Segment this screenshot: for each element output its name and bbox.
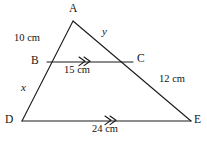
vertex-label-E: E [194, 114, 201, 126]
label-de-length: 24 cm [92, 124, 118, 135]
label-ce-length: 12 cm [159, 74, 185, 85]
label-ac-length: y [102, 26, 107, 37]
vertex-label-D: D [5, 114, 13, 126]
vertex-label-A: A [69, 3, 77, 15]
label-bd-length: x [21, 82, 26, 93]
vertex-label-C: C [137, 53, 145, 65]
label-ab-length: 10 cm [14, 33, 40, 44]
label-bc-length: 15 cm [64, 65, 90, 76]
vertex-label-B: B [31, 55, 39, 67]
segment-AE [73, 21, 191, 121]
geometry-canvas [0, 0, 207, 143]
geometry-figure: A B C D E 10 cm x y 12 cm 15 cm 24 cm [0, 0, 207, 143]
